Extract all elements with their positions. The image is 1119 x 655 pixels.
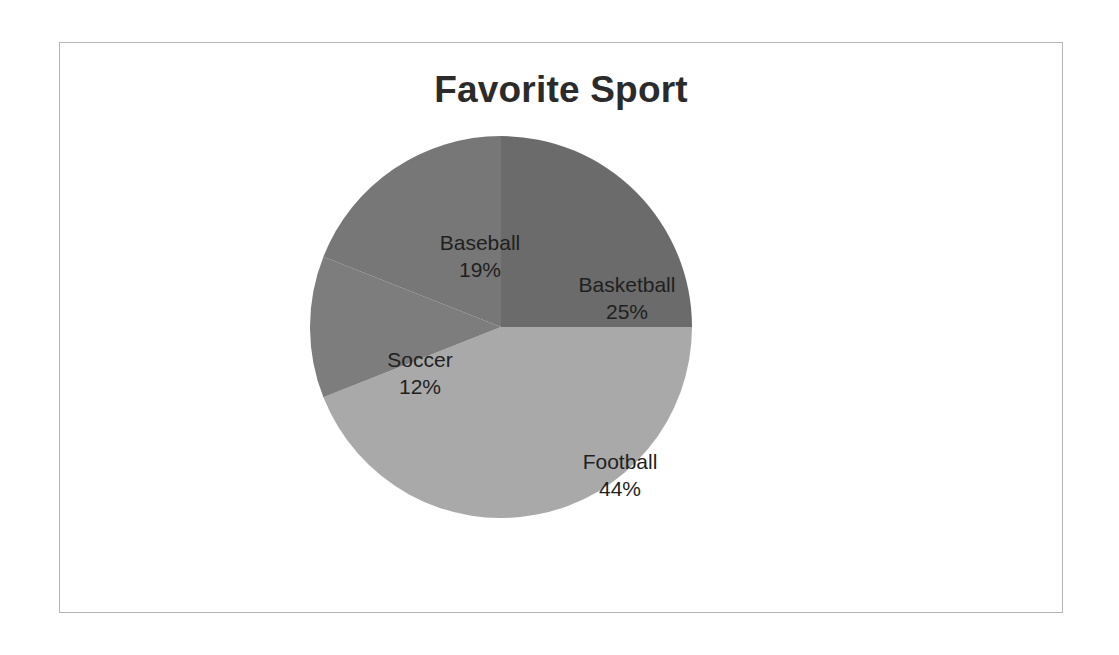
page-root: Favorite Sport Baseball 19% Basketball 2… [0, 0, 1119, 655]
pie-chart-plot-area: Baseball 19% Basketball 25% Soccer 12% F… [60, 43, 1062, 612]
pie-slice-basketball[interactable] [501, 136, 692, 327]
chart-frame: Favorite Sport Baseball 19% Basketball 2… [59, 42, 1063, 613]
pie-chart-graphic [310, 136, 692, 518]
